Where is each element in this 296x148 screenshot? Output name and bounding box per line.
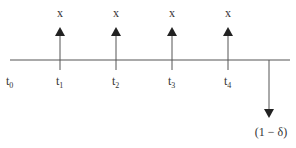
outflow-arrow: (1 − δ)	[255, 60, 287, 139]
inflow-label: x	[57, 6, 63, 20]
cash-flow-diagram: x x x x (1 − δ) t0 t1 t2 t3 t4	[0, 0, 296, 148]
time-label-t0: t0	[6, 74, 13, 90]
arrow-up-icon	[55, 27, 65, 36]
time-label-t1: t1	[56, 74, 63, 90]
time-label-t3: t3	[168, 74, 175, 90]
outflow-label: (1 − δ)	[255, 125, 287, 139]
time-label-t4: t4	[224, 74, 231, 90]
arrow-down-icon	[264, 109, 274, 118]
arrow-up-icon	[167, 27, 177, 36]
arrow-up-icon	[223, 27, 233, 36]
inflow-label: x	[169, 6, 175, 20]
inflow-label: x	[225, 6, 231, 20]
time-label-t2: t2	[112, 74, 119, 90]
inflow-label: x	[113, 6, 119, 20]
arrow-up-icon	[111, 27, 121, 36]
